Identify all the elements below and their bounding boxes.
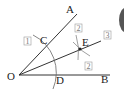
diagram-canvas: A B C D E O 1 2 2 3 [0, 0, 124, 93]
label-D: D [56, 74, 64, 86]
step2b-label: 2 [87, 62, 91, 71]
angle-bisector-diagram: A B C D E O 1 2 2 3 [0, 0, 124, 93]
label-C: C [40, 34, 47, 46]
label-E: E [82, 36, 89, 48]
edge-dark-shape [119, 7, 124, 33]
label-B: B [101, 73, 108, 85]
step1-label: 1 [26, 37, 30, 46]
step3-label: 3 [106, 31, 110, 40]
step2a-label: 2 [77, 24, 81, 33]
label-A: A [66, 3, 74, 15]
label-O: O [7, 70, 15, 82]
